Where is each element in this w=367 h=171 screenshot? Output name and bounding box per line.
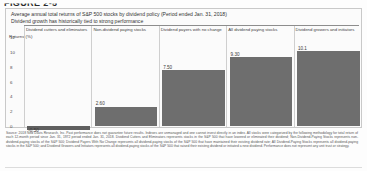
- chart-title: Average annual total returns of S&P 500 …: [11, 11, 357, 18]
- column-header: Dividend growers and initiators: [294, 25, 359, 32]
- y-axis-tick: 12: [10, 35, 15, 40]
- grid-column-separator: [226, 25, 227, 127]
- grid-column-separator: [159, 25, 160, 127]
- grid-column-separator: [24, 25, 25, 127]
- chart-plot-area: Returns (%) Dividend cutters and elimina…: [6, 25, 361, 127]
- y-axis-tick: 6: [10, 79, 12, 84]
- y-axis-tick: 0: [10, 124, 12, 129]
- y-axis-tick: 2: [10, 109, 12, 114]
- y-axis-tick: 4: [10, 94, 12, 99]
- source-footnote: Source: 2018 Ned Davis Research, Inc. Pa…: [6, 131, 358, 148]
- grid-column-separator: [91, 25, 92, 127]
- bar: [297, 51, 360, 126]
- column-header: All dividend paying stocks: [226, 25, 291, 32]
- chart-subtitle: Dividend growth has historically tied to…: [11, 18, 357, 25]
- bar-value-label: 2.60: [96, 101, 105, 106]
- bar-value-label: 10.1: [298, 46, 307, 51]
- column-header: Dividend payers with no change: [159, 25, 224, 32]
- column-header: Dividend cutters and eliminators: [24, 25, 89, 32]
- zero-baseline: [24, 25, 359, 26]
- figure-container: FIGURE 2-5 Average annual total returns …: [0, 0, 367, 171]
- chart-title-block: Average annual total returns of S&P 500 …: [11, 11, 357, 25]
- bar-value-label: 7.50: [163, 65, 172, 70]
- y-axis-tick: 10: [10, 49, 15, 54]
- bar: [230, 57, 293, 126]
- figure-number: FIGURE 2-5: [4, 0, 58, 8]
- chart-panel: Average annual total returns of S&P 500 …: [5, 8, 362, 128]
- bottom-divider: [5, 167, 362, 168]
- y-axis-tick: 8: [10, 64, 12, 69]
- column-header: Non-dividend paying stocks: [91, 25, 156, 32]
- grid-column-separator: [294, 25, 295, 127]
- bar: [95, 107, 158, 126]
- bar: [162, 70, 225, 126]
- bar-value-label: 9.30: [231, 52, 240, 57]
